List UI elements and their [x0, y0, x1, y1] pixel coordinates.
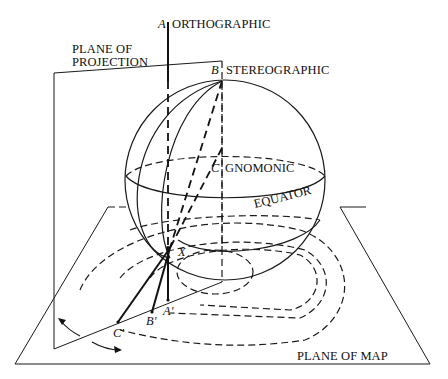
- label-point-a-prime: A': [162, 304, 174, 318]
- label-point-b-prime: B': [146, 314, 157, 328]
- label-stereographic: STEREOGRAPHIC: [226, 63, 329, 77]
- label-point-c-prime: C': [113, 326, 124, 340]
- map-projection-diagram: PLANE OF PROJECTION A ORTHOGRAPHIC B STE…: [0, 0, 448, 379]
- label-point-c: C: [211, 161, 220, 175]
- label-equator: EQUATOR: [252, 183, 313, 211]
- label-orthographic: ORTHOGRAPHIC: [172, 17, 270, 31]
- label-point-b: B: [211, 63, 219, 77]
- label-point-x: X: [177, 245, 187, 259]
- label-plane-of-projection-1: PLANE OF: [72, 42, 132, 56]
- plane-of-projection: [54, 61, 222, 349]
- label-plane-of-map: PLANE OF MAP: [297, 349, 388, 363]
- label-point-a: A: [157, 17, 166, 31]
- label-gnomonic: GNOMONIC: [225, 161, 295, 175]
- point-x-marker: [166, 246, 170, 250]
- label-plane-of-projection-2: PROJECTION: [72, 55, 148, 69]
